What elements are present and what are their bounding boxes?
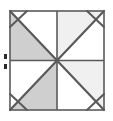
pinwheel-quilt-block-figure bbox=[0, 0, 113, 121]
figure-canvas bbox=[0, 0, 113, 121]
left-edge-marker-group bbox=[4, 54, 7, 69]
left-edge-marker-upper bbox=[4, 54, 7, 59]
left-edge-marker-lower bbox=[4, 64, 7, 69]
